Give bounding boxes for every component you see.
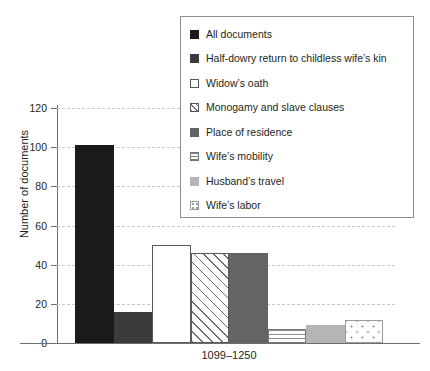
legend-item-label: Wife’s mobility: [206, 151, 273, 162]
bar: [152, 245, 191, 343]
legend-swatch-icon: [190, 103, 199, 112]
bar: [229, 253, 268, 343]
legend-swatch-icon: [190, 152, 199, 161]
legend-item[interactable]: Wife’s mobility: [190, 150, 273, 164]
y-axis-tick-label: 60: [35, 221, 47, 232]
legend-item[interactable]: Monogamy and slave clauses: [190, 101, 344, 115]
legend-item[interactable]: Wife’s labor: [190, 199, 261, 213]
legend-item-label: Place of residence: [206, 127, 292, 138]
bar-chart: Number of documents 020406080100120 1099…: [0, 0, 430, 371]
legend-item-label: Widow’s oath: [206, 78, 268, 89]
legend-item-label: Monogamy and slave clauses: [206, 102, 344, 113]
y-axis-tick-label: 100: [29, 142, 47, 153]
bar: [114, 312, 153, 343]
legend-swatch-icon: [190, 128, 199, 137]
bar: [345, 320, 384, 344]
legend-swatch-icon: [190, 30, 199, 39]
legend-swatch-icon: [190, 201, 199, 210]
y-axis-tick-labels: 020406080100120: [0, 0, 47, 371]
legend-item[interactable]: All documents: [190, 27, 272, 41]
bar: [191, 253, 230, 343]
x-axis-category-label: 1099–1250: [129, 349, 329, 361]
bar: [306, 325, 345, 343]
legend-item-label: Husband’s travel: [206, 176, 284, 187]
legend: All documentsHalf-dowry return to childl…: [180, 16, 414, 218]
legend-item-label: Half-dowry return to childless wife’s ki…: [206, 53, 387, 64]
legend-swatch-icon: [190, 177, 199, 186]
y-axis-tick-label: 120: [29, 103, 47, 114]
bar: [268, 329, 307, 343]
legend-item-label: All documents: [206, 29, 272, 40]
legend-item[interactable]: Husband’s travel: [190, 174, 284, 188]
y-axis-tick-label: 20: [35, 299, 47, 310]
legend-item[interactable]: Place of residence: [190, 125, 292, 139]
y-axis-tick-label: 80: [35, 181, 47, 192]
y-axis-tick-label: 40: [35, 260, 47, 271]
bar: [75, 145, 114, 343]
legend-item[interactable]: Half-dowry return to childless wife’s ki…: [190, 52, 387, 66]
x-axis-line: [20, 343, 420, 344]
legend-swatch-icon: [190, 79, 199, 88]
legend-swatch-icon: [190, 54, 199, 63]
legend-item-label: Wife’s labor: [206, 200, 261, 211]
legend-item[interactable]: Widow’s oath: [190, 76, 268, 90]
